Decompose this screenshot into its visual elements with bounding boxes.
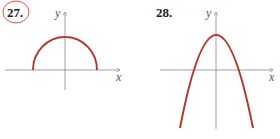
graph-27: 27. y x (3, 1, 122, 90)
graph-28: 28. y x (156, 5, 275, 129)
x-axis-label-28: x (268, 70, 275, 84)
x-axis-label-27: x (115, 70, 122, 84)
problem-number-27: 27. (7, 5, 23, 20)
y-axis-label-27: y (54, 6, 61, 20)
problem-number-28: 28. (156, 5, 172, 20)
parabola-curve (180, 35, 253, 128)
figure-canvas: 27. y x 28. y x (0, 0, 280, 139)
y-axis-label-28: y (205, 6, 212, 20)
